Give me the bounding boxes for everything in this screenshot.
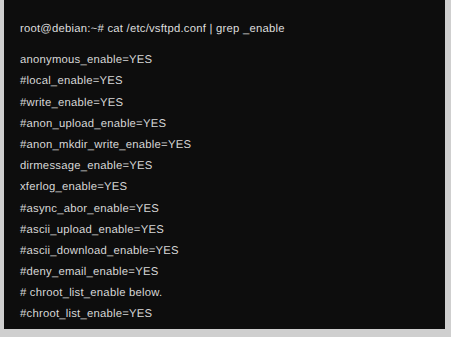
terminal-prompt-line: root@debian:~# cat /etc/vsftpd.conf | gr… bbox=[20, 19, 439, 40]
terminal-output-line: # chroot_list_enable below. bbox=[20, 283, 439, 304]
terminal-output-line: dirmessage_enable=YES bbox=[20, 156, 439, 177]
terminal-blank-line bbox=[20, 40, 439, 50]
terminal-output-line: #anon_mkdir_write_enable=YES bbox=[20, 135, 439, 156]
terminal-output-line: #anon_upload_enable=YES bbox=[20, 114, 439, 135]
terminal-output-line: #deny_email_enable=YES bbox=[20, 262, 439, 283]
terminal-output-line: #chroot_list_enable=YES bbox=[20, 304, 439, 325]
terminal-output-line: #local_enable=YES bbox=[20, 71, 439, 92]
terminal-output-line: #async_abor_enable=YES bbox=[20, 199, 439, 220]
terminal-output-line: #ls_recurse_enable=YES bbox=[20, 326, 439, 329]
terminal-output-line: #ascii_download_enable=YES bbox=[20, 241, 439, 262]
terminal-output-area[interactable]: root@debian:~# cat /etc/vsftpd.conf | gr… bbox=[20, 19, 439, 325]
terminal-output-line: #ascii_upload_enable=YES bbox=[20, 220, 439, 241]
terminal-window[interactable]: root@debian:~# cat /etc/vsftpd.conf | gr… bbox=[4, 0, 445, 329]
terminal-output-line: xferlog_enable=YES bbox=[20, 177, 439, 198]
terminal-output-line: #write_enable=YES bbox=[20, 93, 439, 114]
terminal-output-line: anonymous_enable=YES bbox=[20, 50, 439, 71]
